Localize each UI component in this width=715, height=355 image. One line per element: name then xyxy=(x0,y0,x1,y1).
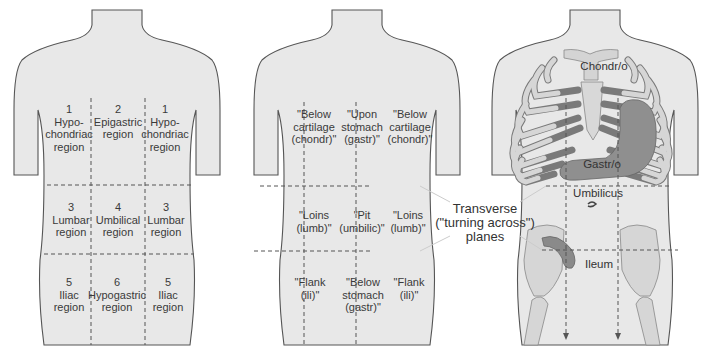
region-label-hypogastric: 6 Hypogastric region xyxy=(88,276,146,314)
region-label-lumbar-left: 3 Lumbar region xyxy=(52,201,89,239)
meaning-label-below-cartilage-right: "Below cartilage (chondr)" xyxy=(388,108,433,146)
region-label-epigastric: 2 Epigastric region xyxy=(94,103,142,141)
umbilicus-label: Umbilicus xyxy=(573,187,623,199)
meaning-label-below-stomach: "Below stomach (gastr)" xyxy=(342,276,384,314)
meaning-label-below-cartilage-left: "Below cartilage (chondr)" xyxy=(292,108,337,146)
transverse-planes-label: Transverse ("turning across") planes xyxy=(435,202,535,244)
region-label-umbilical: 4 Umbilical region xyxy=(96,201,141,239)
region-label-iliac-right: 5 Iliac region xyxy=(153,276,184,314)
region-label-hypochondriac-right: 1 Hypo- chondriac region xyxy=(141,103,189,153)
meaning-label-loins-right: "Loins (lumb)" xyxy=(390,209,425,234)
chondro-label: Chondr/o xyxy=(580,60,627,72)
meaning-label-loins-left: "Loins (lumb)" xyxy=(296,209,331,234)
gastro-label: Gastr/o xyxy=(583,158,621,170)
region-label-hypochondriac-left: 1 Hypo- chondriac region xyxy=(45,103,93,153)
region-label-lumbar-right: 3 Lumbar region xyxy=(147,201,184,239)
meaning-label-flank-left: "Flank (ili)" xyxy=(295,276,326,301)
region-label-iliac-left: 5 Iliac region xyxy=(54,276,85,314)
meaning-label-upon-stomach: "Upon stomach (gastr)" xyxy=(341,108,383,146)
meaning-label-flank-right: "Flank (ili)" xyxy=(394,276,425,301)
meaning-label-pit: "Pit (umbilic)" xyxy=(339,209,384,234)
ileum-label: Ileum xyxy=(585,258,613,270)
